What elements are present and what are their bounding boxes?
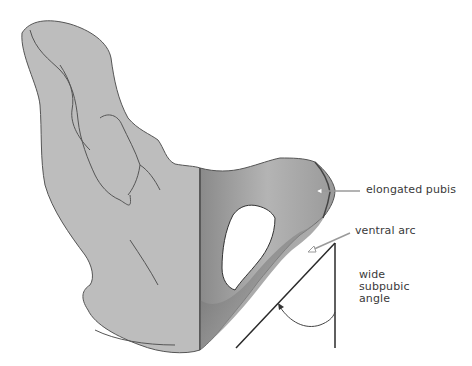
angle-arc xyxy=(280,307,335,326)
arrowhead-ventral-arc xyxy=(308,246,316,252)
label-ventral-arc: ventral arc xyxy=(355,225,416,237)
label-subpubic-angle: wide subpubic angle xyxy=(359,269,410,305)
ilium-shape xyxy=(22,21,200,353)
label-subpubic-angle-line3: angle xyxy=(359,293,410,305)
label-elongated-pubis: elongated pubis xyxy=(366,184,456,196)
